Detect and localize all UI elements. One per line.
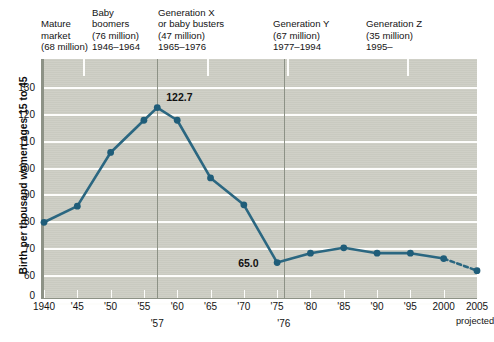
data-point-1970[interactable] [240, 201, 247, 208]
y-tick-80: 80 [24, 217, 35, 227]
x-tick-2005 [477, 290, 478, 298]
cohort-label-5: Generation Z(35 million)1995– [366, 18, 422, 53]
x-label-1975: '75 [271, 301, 284, 313]
data-point-2005[interactable] [474, 267, 481, 274]
cohort-label-4: Generation Y(67 million)1977–1994 [273, 18, 329, 53]
x-label-1970: '70 [237, 301, 250, 313]
value-label-122-7: 122.7 [166, 91, 192, 103]
x-label-1955: '55 [137, 301, 150, 313]
y-tick-60: 60 [24, 271, 35, 281]
cohort-label-line: Generation X [158, 7, 224, 19]
cohort-label-line: boomers [92, 18, 140, 30]
y-axis-tick-labels: 130120110100908070600 [0, 59, 38, 298]
cohort-label-line: (47 million) [158, 30, 224, 42]
y-tick-100: 100 [18, 164, 35, 174]
birth-rate-series [44, 59, 477, 298]
y-tick-90: 90 [24, 190, 35, 200]
x-label-1950: '50 [104, 301, 117, 313]
data-point-1995[interactable] [407, 250, 414, 257]
cohort-label-1: Maturemarket(68 million) [41, 18, 88, 53]
y-tick-70: 70 [24, 244, 35, 254]
cohort-label-line: (67 million) [273, 30, 329, 42]
cohort-label-line: Generation Y [273, 18, 329, 30]
x-label-1945: '45 [71, 301, 84, 313]
x-label-1985: '85 [337, 301, 350, 313]
data-point-1945[interactable] [74, 203, 81, 210]
x-label-1980: '80 [304, 301, 317, 313]
y-tick-120: 120 [18, 110, 35, 120]
cohort-label-3: Generation Xor baby busters(47 million)1… [158, 7, 224, 53]
x-label-1965: '65 [204, 301, 217, 313]
series-line-projected [444, 259, 477, 271]
cohort-header: Maturemarket(68 million)Babyboomers(76 m… [41, 4, 477, 54]
x-label-1995: '95 [404, 301, 417, 313]
x-label-1990: '90 [371, 301, 384, 313]
x-label-1940: 1940 [33, 301, 55, 313]
series-line-actual [44, 108, 444, 263]
data-point-1940[interactable] [41, 219, 48, 226]
y-tick-110: 110 [19, 137, 35, 147]
cohort-label-line: 1946–1964 [92, 41, 140, 53]
x-annotation-57: '57 [151, 318, 164, 330]
cohort-label-line: 1977–1994 [273, 41, 329, 53]
cohort-label-line: market [41, 30, 88, 42]
cohort-label-line: (35 million) [366, 30, 422, 42]
x-axis-annotations: '57'76 [0, 318, 479, 332]
cohort-label-line: Mature [41, 18, 88, 30]
data-point-1975[interactable] [274, 259, 281, 266]
data-point-1957[interactable] [154, 104, 161, 111]
cohort-label-line: 1995– [366, 41, 422, 53]
cohort-label-line: 1965–1976 [158, 41, 224, 53]
plot-area: 122.765.0 [44, 59, 477, 298]
cohort-label-line: or baby busters [158, 18, 224, 30]
data-point-1990[interactable] [374, 250, 381, 257]
data-point-1980[interactable] [307, 250, 314, 257]
x-label-2005: 2005 [466, 301, 488, 313]
data-point-2000[interactable] [440, 255, 447, 262]
x-label-2000: 2000 [433, 301, 455, 313]
cohort-label-line: Generation Z [366, 18, 422, 30]
data-point-1950[interactable] [107, 149, 114, 156]
x-axis-tick-labels: 1940'45'50'55'60'65'70'75'80'85'90'95200… [0, 301, 479, 315]
cohort-label-line: (68 million) [41, 41, 88, 53]
data-point-1965[interactable] [207, 175, 214, 182]
cohort-label-line: Baby [92, 7, 140, 19]
cohort-label-line: (76 million) [92, 30, 140, 42]
data-point-1960[interactable] [174, 117, 181, 124]
x-label-1960: '60 [171, 301, 184, 313]
value-label-65-0: 65.0 [238, 257, 258, 269]
data-point-1985[interactable] [340, 244, 347, 251]
x-annotation-76: '76 [277, 318, 290, 330]
y-tick-130: 130 [18, 83, 35, 93]
cohort-label-2: Babyboomers(76 million)1946–1964 [92, 7, 140, 53]
y-tick-0: 0 [29, 291, 35, 301]
projected-note-label: projected [456, 316, 494, 326]
data-point-1955[interactable] [141, 117, 148, 124]
